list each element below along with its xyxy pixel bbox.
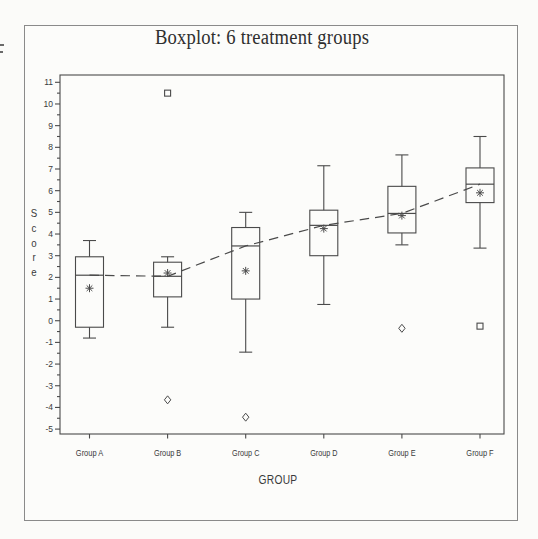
outlier-square-marker [477, 323, 483, 329]
mean-marker-group-c [242, 267, 250, 275]
mean-marker-group-e [398, 212, 406, 220]
x-category-label: Group A [76, 447, 104, 458]
outlier-square-marker [165, 90, 171, 96]
y-tick-label: 7 [48, 164, 53, 174]
plot-frame [60, 75, 504, 434]
y-tick-label: 11 [44, 77, 53, 87]
y-tick-label: -2 [45, 359, 53, 369]
y-tick-label: 10 [44, 99, 54, 109]
mean-marker-group-f [476, 189, 484, 197]
y-tick-label: -1 [45, 337, 53, 347]
mean-marker-group-b [164, 269, 172, 277]
y-tick-label: 1 [48, 294, 53, 304]
y-tick-label: 3 [48, 251, 53, 261]
box-group-c [232, 228, 260, 300]
outlier-diamond-marker [164, 396, 170, 404]
outlier-diamond-marker [399, 324, 405, 332]
median-connect-line [90, 184, 481, 276]
y-tick-label: 2 [48, 272, 53, 282]
y-tick-label: -4 [45, 402, 53, 412]
page-background: Boxplot: 6 treatment groups Score -5-4-3… [0, 0, 538, 539]
y-tick-label: 4 [48, 229, 53, 239]
x-category-label: Group D [310, 447, 337, 458]
y-tick-label: 5 [48, 207, 53, 217]
y-tick-label: -3 [45, 381, 53, 391]
x-category-label: Group B [154, 447, 181, 458]
mean-marker-group-d [320, 225, 328, 233]
y-tick-label: 9 [48, 121, 53, 131]
y-tick-label: 6 [48, 186, 53, 196]
y-tick-label: 0 [48, 316, 53, 326]
x-category-label: Group E [388, 447, 415, 458]
boxplot-canvas: -5-4-3-2-101234567891011Group AGroup BGr… [0, 0, 538, 539]
y-tick-label: -5 [45, 424, 53, 434]
x-axis-title: GROUP [99, 473, 457, 487]
x-category-label: Group C [232, 447, 259, 458]
box-group-f [466, 168, 494, 203]
y-tick-label: 8 [48, 142, 53, 152]
box-group-d [310, 210, 338, 256]
mean-marker-group-a [86, 284, 94, 292]
outlier-diamond-marker [243, 413, 249, 421]
x-category-label: Group F [466, 447, 493, 458]
box-group-b [154, 262, 182, 297]
